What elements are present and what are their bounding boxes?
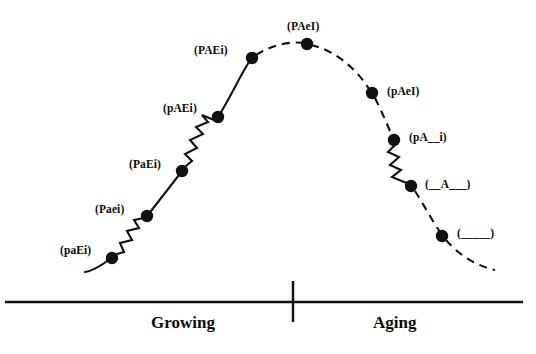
diagram-canvas: (paEi) (Paei) (PaEi) (pAEi) (PAEi) (PAeI… [0, 0, 536, 354]
curve-node [388, 134, 400, 146]
node-label-PAeI: (PAeI) [287, 21, 319, 33]
curve-node [141, 210, 153, 222]
curve-node [436, 230, 448, 242]
curve-node [212, 111, 224, 123]
curve-node [301, 38, 313, 50]
curve-dashed-n7-n8 [375, 98, 392, 136]
phase-label-aging: Aging [373, 314, 416, 331]
curve-solid-n2-n3 [151, 175, 179, 211]
node-label-paEi: (paEi) [60, 245, 91, 257]
node-label-PAEi: (PAEi) [194, 45, 228, 57]
curve-node [106, 252, 118, 264]
phase-label-growing: Growing [151, 314, 215, 331]
curve-right-tail [446, 240, 495, 270]
node-label-pAEi: (pAEi) [163, 103, 197, 115]
curve-dashed-n9-n10 [415, 191, 440, 232]
node-label-pAeI: (pAeI) [387, 86, 420, 98]
curve-node [246, 52, 258, 64]
node-label-blank: (_____) [457, 228, 494, 240]
curve-left-tail [85, 259, 110, 272]
curve-dashed-crest [256, 43, 304, 56]
node-label-Paei: (Paei) [95, 204, 124, 216]
curve-node [405, 180, 417, 192]
curve-dashed-n6-n7 [311, 45, 369, 89]
curve-node [366, 87, 378, 99]
curve-solid-n4-n5 [221, 62, 249, 112]
life-course-curve-diagram [0, 0, 536, 354]
zigzag-segment-3 [388, 145, 408, 183]
curve-node [176, 165, 188, 177]
node-label-pA-i: (pA__i) [409, 132, 447, 144]
zigzag-segment-1 [117, 218, 144, 254]
node-label-A-blank: (__A___) [425, 179, 471, 191]
zigzag-segment-2 [185, 115, 214, 166]
node-label-PaEi: (PaEi) [129, 159, 161, 171]
